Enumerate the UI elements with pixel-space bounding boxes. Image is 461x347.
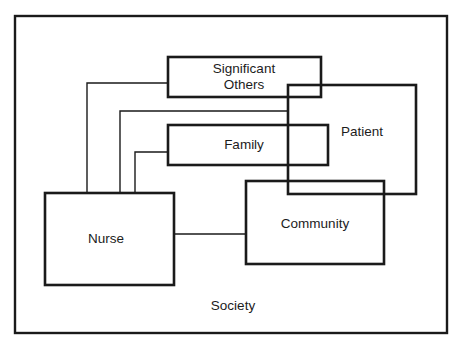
significant-others-label-line1: Significant bbox=[213, 61, 275, 77]
family-label: Family bbox=[224, 137, 264, 153]
diagram-canvas bbox=[0, 0, 461, 347]
significant-others-label-line2: Others bbox=[213, 77, 275, 93]
connector-nurse-family bbox=[135, 152, 168, 193]
society-label: Society bbox=[211, 298, 255, 314]
significant-others-label: Significant Others bbox=[213, 61, 275, 93]
connector-nurse-significant-others bbox=[87, 83, 168, 193]
community-label: Community bbox=[281, 216, 349, 232]
nurse-label: Nurse bbox=[88, 231, 124, 247]
patient-label: Patient bbox=[341, 124, 383, 140]
